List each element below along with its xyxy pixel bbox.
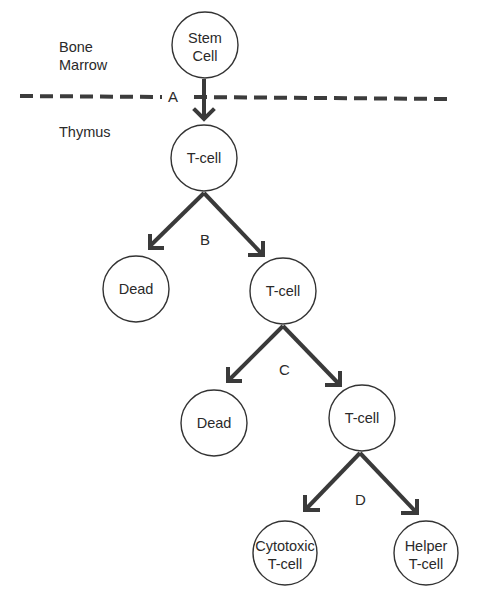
- cell-t-cell-3: T-cell: [329, 385, 395, 451]
- bone-marrow-thymus-divider-right: [194, 97, 448, 99]
- arrow-d-left: [305, 453, 360, 510]
- cell-label: Cytotoxic: [255, 538, 315, 554]
- cell-helper-t-cell: Helper T-cell: [394, 521, 458, 585]
- arrow-b-right: [204, 193, 263, 255]
- bone-marrow-thymus-divider: [20, 96, 162, 97]
- region-label-bone-marrow-line1: Bone: [59, 39, 93, 55]
- cell-label: T-cell: [187, 150, 222, 166]
- cell-dead-1: Dead: [103, 256, 169, 322]
- cell-label: Stem: [188, 30, 222, 46]
- region-label-bone-marrow-line2: Marrow: [59, 57, 108, 73]
- cell-label: T-cell: [268, 556, 303, 572]
- cell-cytotoxic-t-cell: Cytotoxic T-cell: [253, 521, 317, 585]
- step-label-c: C: [279, 361, 290, 378]
- cell-stem-cell: Stem Cell: [172, 12, 238, 78]
- region-label-thymus: Thymus: [59, 124, 111, 140]
- cell-label: Dead: [197, 415, 232, 431]
- cell-label: T-cell: [266, 283, 301, 299]
- cell-label: Cell: [193, 48, 218, 64]
- step-label-a: A: [168, 88, 178, 105]
- cell-t-cell-1: T-cell: [171, 125, 237, 191]
- arrow-d-right: [360, 453, 417, 513]
- step-label-d: D: [355, 491, 366, 508]
- t-cell-development-diagram: Bone Marrow Thymus A Stem Cell T-cell B …: [0, 0, 477, 600]
- step-label-b: B: [200, 231, 210, 248]
- cell-label: T-cell: [409, 556, 444, 572]
- cell-dead-2: Dead: [181, 390, 247, 456]
- arrow-c-left: [228, 326, 283, 381]
- cell-label: T-cell: [345, 410, 380, 426]
- cell-t-cell-2: T-cell: [250, 258, 316, 324]
- arrow-b-left: [150, 193, 204, 248]
- arrow-c-right: [283, 326, 340, 385]
- cell-label: Helper: [405, 538, 448, 554]
- cell-label: Dead: [119, 281, 154, 297]
